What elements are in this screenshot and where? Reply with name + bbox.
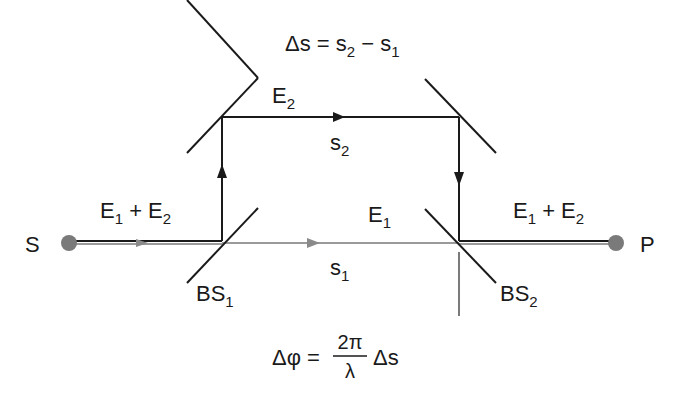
phase-equation-denominator: λ: [345, 360, 355, 382]
input-field-label: E1 + E2: [100, 198, 171, 227]
phase-equation-numerator: 2π: [338, 331, 363, 353]
lower-field-label: E1: [368, 202, 391, 231]
bs1-label: BS1: [196, 281, 234, 310]
path-difference-equation: Δs = s2 − s1: [285, 31, 400, 60]
down-arrow-icon: [454, 172, 464, 186]
source-label: S: [25, 232, 40, 257]
detector-point-icon: [608, 235, 624, 251]
interferometer-diagram: Δs = s2 − s1 E2 s2 S P E1 + E2 E1 + E2 E…: [0, 0, 681, 397]
upper-field-label: E2: [272, 83, 295, 112]
bs2-label: BS2: [500, 281, 538, 310]
detector-label: P: [640, 232, 655, 257]
phase-equation-lhs: Δφ =: [272, 345, 320, 370]
source-point-icon: [61, 235, 77, 251]
phase-equation-rhs: Δs: [373, 345, 399, 370]
beam-splitter-2: [425, 209, 496, 283]
lower-path-label: s1: [330, 255, 349, 284]
output-field-label: E1 + E2: [513, 198, 584, 227]
up-arrow-icon: [217, 164, 227, 178]
upper-beam-arrow-icon: [333, 112, 345, 122]
upper-path-label: s2: [330, 130, 349, 159]
mirror-upper-left: [187, 0, 258, 78]
lower-beam-arrow-icon: [307, 238, 320, 248]
